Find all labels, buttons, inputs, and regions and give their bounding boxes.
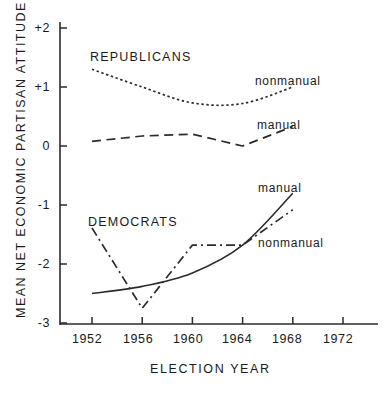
x-tick-label-1968: 1968 — [272, 332, 302, 346]
y-axis-title: MEAN NET ECONOMIC PARTISAN ATTITUDE — [14, 1, 28, 318]
series-label-republicans-nonmanual: nonmanual — [255, 74, 321, 88]
chart-figure: +2 +1 0 -1 -2 -3 1952 1956 1960 1964 196… — [0, 0, 390, 404]
series-label-democrats-nonmanual: nonmanual — [258, 236, 324, 250]
x-tick-label-1956: 1956 — [123, 332, 153, 346]
y-axis-ticks — [60, 28, 67, 323]
x-tick-label-1964: 1964 — [222, 332, 252, 346]
x-tick-label-1972: 1972 — [323, 332, 353, 346]
annotation-republicans: REPUBLICANS — [90, 50, 191, 64]
y-tick-label-neg3: -3 — [16, 316, 50, 330]
x-axis-ticks — [92, 317, 343, 324]
x-tick-label-1952: 1952 — [72, 332, 102, 346]
series-label-republicans-manual: manual — [257, 118, 301, 132]
x-tick-label-1960: 1960 — [173, 332, 203, 346]
x-axis-title: ELECTION YEAR — [150, 362, 271, 376]
series-label-democrats-manual: manual — [258, 181, 302, 195]
annotation-democrats: DEMOCRATS — [88, 215, 178, 229]
